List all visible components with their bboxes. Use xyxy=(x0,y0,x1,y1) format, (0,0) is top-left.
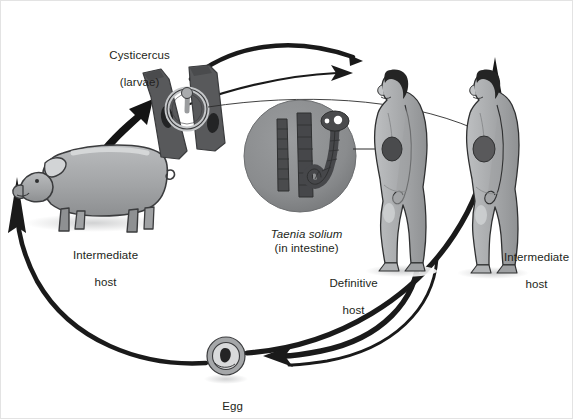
label-taenia-location-text: (in intestine) xyxy=(275,242,339,254)
label-human-host-line2: host xyxy=(526,278,548,290)
human-definitive-host xyxy=(365,69,437,277)
taenia-solium-lifecycle-figure: Cysticercus (larvae) Taenia solium (in i… xyxy=(0,0,573,419)
label-definitive-host: Definitive host xyxy=(297,263,397,331)
label-human-intermediate-host: Intermediate host xyxy=(486,237,573,305)
proglottid-chain-1 xyxy=(277,119,289,191)
egg-figure xyxy=(204,337,248,384)
label-pig-host-line1: Intermediate xyxy=(73,249,138,261)
label-egg: Egg xyxy=(196,386,256,419)
label-cysticercus-line2: (larvae) xyxy=(120,76,160,88)
label-definitive-host-line2: host xyxy=(343,304,365,316)
pig-figure xyxy=(13,145,175,232)
label-egg-text: Egg xyxy=(222,400,243,412)
label-cysticercus: Cysticercus (larvae) xyxy=(77,35,189,103)
label-pig-host-line2: host xyxy=(95,276,117,288)
tapeworm-circle xyxy=(244,100,356,212)
label-cysticercus-line1: Cysticercus xyxy=(109,49,170,61)
label-pig-intermediate-host: Intermediate host xyxy=(39,235,159,303)
label-definitive-host-line1: Definitive xyxy=(329,277,377,289)
label-human-host-line1: Intermediate xyxy=(504,251,569,263)
